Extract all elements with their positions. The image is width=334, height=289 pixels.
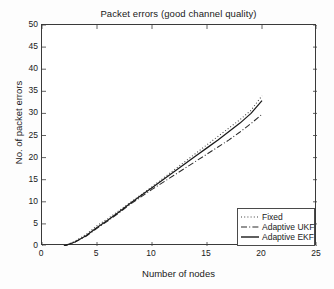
chart-legend: FixedAdaptive UKFAdaptive EKF (237, 208, 315, 246)
x-tick-label: 10 (136, 249, 166, 258)
x-axis-label: Number of nodes (41, 268, 316, 279)
y-tick-label: 10 (2, 197, 38, 206)
legend-line-sample (240, 232, 260, 242)
legend-label: Adaptive UKF (260, 222, 314, 232)
legend-item: Adaptive EKF (240, 232, 311, 242)
y-tick-label: 50 (2, 20, 38, 29)
x-axis-tick-labels: 0510152025 (41, 249, 316, 263)
legend-label: Adaptive EKF (260, 232, 314, 242)
y-tick-label: 5 (2, 219, 38, 228)
y-tick-label: 0 (2, 241, 38, 250)
x-tick-label: 5 (81, 249, 111, 258)
legend-line-sample (240, 222, 260, 232)
x-tick-label: 20 (246, 249, 276, 258)
chart-title: Packet errors (good channel quality) (41, 8, 316, 19)
legend-label: Fixed (260, 212, 283, 222)
y-tick-label: 45 (2, 42, 38, 51)
legend-item: Fixed (240, 212, 311, 222)
series-line-3 (64, 101, 262, 246)
x-tick-label: 0 (26, 249, 56, 258)
x-tick-label: 15 (191, 249, 221, 258)
x-tick-label: 25 (301, 249, 331, 258)
y-axis-label: No. of packet errors (13, 53, 24, 193)
chart-figure: Packet errors (good channel quality) 051… (0, 0, 334, 289)
legend-line-sample (240, 212, 260, 222)
legend-item: Adaptive UKF (240, 222, 311, 232)
series-line-1 (64, 96, 262, 246)
